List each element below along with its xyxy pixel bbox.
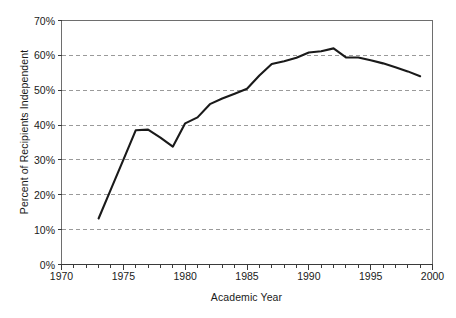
gridlines xyxy=(62,55,433,229)
axis-lines xyxy=(62,21,433,265)
x-axis-title: Academic Year xyxy=(61,291,432,303)
plot-area xyxy=(0,0,456,318)
data-series-group xyxy=(99,48,421,218)
x-axis-ticks xyxy=(62,265,433,270)
data-line-series-0 xyxy=(99,48,421,218)
line-chart: Percent of Recipients Independent 0%10%2… xyxy=(0,0,456,318)
